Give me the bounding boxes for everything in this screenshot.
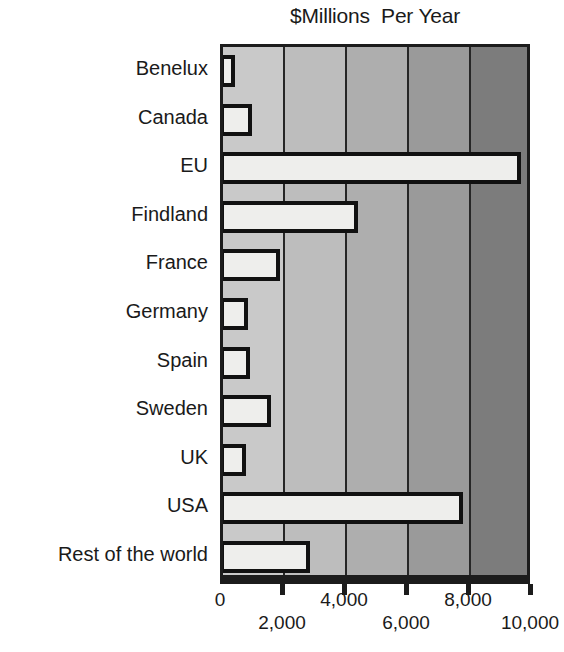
bar-usa — [220, 492, 463, 524]
bar-row — [223, 347, 527, 379]
bar-germany — [220, 298, 248, 330]
chart-figure: $Millions Per Year BeneluxCanadaEUFindla… — [0, 0, 564, 652]
bar-canada — [220, 104, 252, 136]
category-label-benelux: Benelux — [136, 58, 208, 78]
x-axis-tick — [528, 584, 533, 595]
bar-findland — [220, 201, 358, 233]
category-axis-labels: BeneluxCanadaEUFindlandFranceGermanySpai… — [0, 44, 214, 578]
bar-row — [223, 152, 527, 184]
category-label-germany: Germany — [126, 301, 208, 321]
bar-row — [223, 201, 527, 233]
x-tick-label-8000: 8,000 — [444, 589, 492, 611]
bar-row — [223, 444, 527, 476]
bar-france — [220, 249, 280, 281]
category-label-rest-of-the-world: Rest of the world — [58, 544, 208, 564]
category-label-usa: USA — [167, 495, 208, 515]
x-tick-label-6000: 6,000 — [382, 612, 430, 634]
category-label-uk: UK — [180, 447, 208, 467]
bar-row — [223, 249, 527, 281]
bar-benelux — [220, 55, 235, 87]
category-label-france: France — [146, 252, 208, 272]
category-label-canada: Canada — [138, 107, 208, 127]
bar-eu — [220, 152, 521, 184]
category-label-findland: Findland — [131, 204, 208, 224]
x-axis-tick — [404, 584, 409, 595]
category-label-spain: Spain — [157, 350, 208, 370]
category-label-eu: EU — [180, 155, 208, 175]
bar-row — [223, 55, 527, 87]
bar-row — [223, 298, 527, 330]
bars-layer — [223, 47, 527, 575]
bar-row — [223, 541, 527, 573]
x-tick-label-2000: 2,000 — [258, 612, 306, 634]
chart-title: $Millions Per Year — [220, 4, 530, 28]
x-tick-label-10000: 10,000 — [501, 612, 559, 634]
x-tick-label-4000: 4,000 — [320, 589, 368, 611]
page-bleed-sliver: bottom page text partially cropped — [0, 637, 564, 652]
bar-row — [223, 492, 527, 524]
bar-row — [223, 104, 527, 136]
bar-rest-of-the-world — [220, 541, 310, 573]
plot-area — [220, 44, 530, 578]
bar-spain — [220, 347, 250, 379]
category-label-sweden: Sweden — [136, 398, 208, 418]
bar-row — [223, 395, 527, 427]
x-tick-label-0: 0 — [215, 589, 226, 611]
bar-uk — [220, 444, 246, 476]
x-axis-line — [220, 578, 530, 584]
x-axis-tick — [280, 584, 285, 595]
bar-sweden — [220, 395, 271, 427]
